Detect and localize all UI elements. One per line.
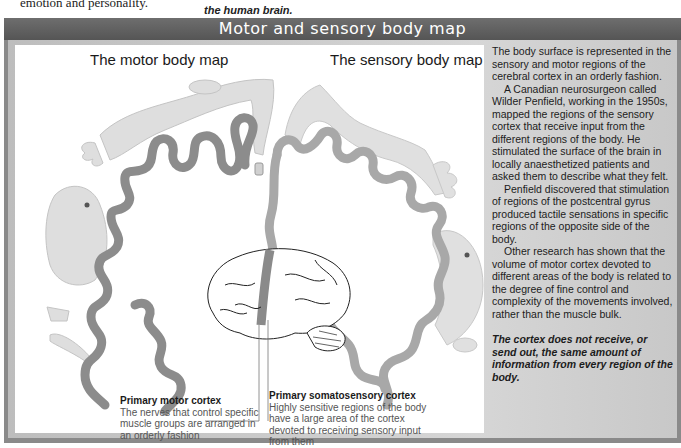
- preceding-caption-fragment: the human brain.: [204, 4, 293, 16]
- body-map-figure: The motor body map The sensory body map: [15, 45, 484, 433]
- sidebar-paragraph: The body surface is represented in the s…: [492, 45, 674, 83]
- callout-motor-cortex-title: Primary motor cortex: [120, 395, 260, 407]
- sidebar-paragraph: Penfield discovered that stimulation of …: [492, 183, 674, 246]
- callout-motor-cortex: Primary motor cortex The nerves that con…: [120, 395, 260, 441]
- panel-frame: The motor body map The sensory body map: [8, 40, 677, 438]
- sidebar-paragraph: A Canadian neurosurgeon called Wilder Pe…: [492, 83, 674, 183]
- preceding-text-fragment: emotion and personality.: [20, 0, 148, 11]
- panel-title: Motor and sensory body map: [4, 18, 681, 40]
- homunculus-illustration: [15, 45, 484, 433]
- callout-somatosensory-cortex-text: Highly sensitive regions of the body hav…: [269, 402, 426, 448]
- callout-somatosensory-cortex: Primary somatosensory cortex Highly sens…: [269, 390, 429, 448]
- sidebar-text: The body surface is represented in the s…: [492, 45, 674, 383]
- spinal-section-icon: [255, 163, 263, 175]
- sidebar-conclusion: The cortex does not receive, or send out…: [492, 333, 674, 383]
- body-map-panel: Motor and sensory body map The motor bod…: [4, 18, 681, 443]
- brain-icon: [208, 249, 350, 351]
- callout-somatosensory-cortex-title: Primary somatosensory cortex: [269, 390, 429, 402]
- sidebar-paragraph: Other research has shown that the volume…: [492, 245, 674, 320]
- callout-motor-cortex-text: The nerves that control specific muscle …: [120, 407, 258, 441]
